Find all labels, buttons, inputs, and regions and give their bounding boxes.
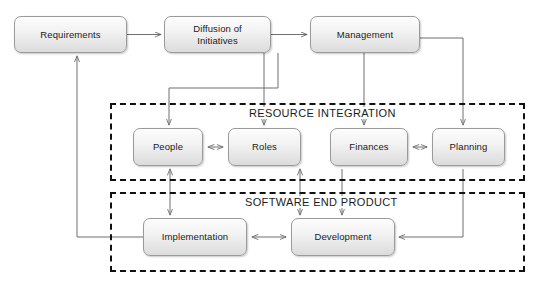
group-title-software-end-product: SOFTWARE END PRODUCT — [243, 196, 400, 208]
node-development[interactable]: Development — [291, 218, 395, 256]
group-title-resource-integration: RESOURCE INTEGRATION — [247, 107, 398, 119]
node-label-diffusion-line1: Diffusion of — [193, 23, 242, 35]
node-label-management: Management — [337, 29, 393, 41]
node-planning[interactable]: Planning — [432, 128, 505, 166]
node-roles[interactable]: Roles — [228, 128, 301, 166]
node-finances[interactable]: Finances — [330, 128, 408, 166]
process-diagram: RESOURCE INTEGRATION SOFTWARE END PRODUC… — [0, 0, 537, 287]
cropped-header-text — [120, 0, 420, 7]
node-management[interactable]: Management — [310, 16, 420, 53]
node-implementation[interactable]: Implementation — [143, 218, 247, 256]
node-requirements[interactable]: Requirements — [14, 16, 127, 53]
node-label-planning: Planning — [450, 141, 488, 153]
node-label-implementation: Implementation — [162, 231, 228, 243]
node-label-diffusion-line2: Initiatives — [197, 35, 238, 47]
node-label-development: Development — [314, 231, 371, 243]
node-people[interactable]: People — [133, 128, 203, 166]
node-label-requirements: Requirements — [40, 29, 100, 41]
node-label-finances: Finances — [349, 141, 388, 153]
node-label-roles: Roles — [252, 141, 277, 153]
node-diffusion-of-initiatives[interactable]: Diffusion of Initiatives — [164, 16, 271, 53]
node-label-people: People — [153, 141, 183, 153]
